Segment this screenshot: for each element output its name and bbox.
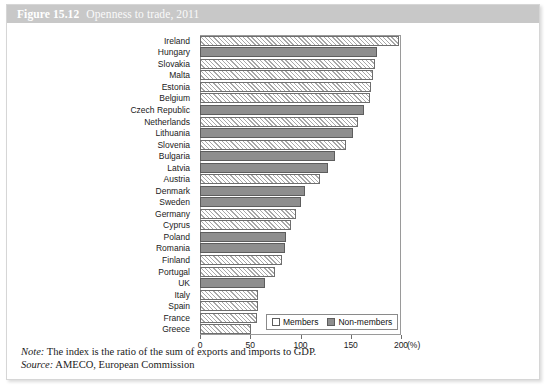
- bar-row: [200, 267, 401, 277]
- bar-slovenia: [200, 140, 346, 150]
- y-axis-label-netherlands: Netherlands: [144, 117, 190, 127]
- y-axis-label-hungary: Hungary: [158, 47, 190, 57]
- figure-header: Figure 15.12 Openness to trade, 2011: [7, 5, 539, 23]
- bar-row: [200, 174, 401, 184]
- y-axis-label-denmark: Denmark: [156, 186, 190, 196]
- legend-swatch-members-icon: [272, 318, 280, 326]
- bar-row: [200, 128, 401, 138]
- bar-cyprus: [200, 220, 291, 230]
- y-axis-label-czech-republic: Czech Republic: [130, 105, 190, 115]
- y-axis-label-finland: Finland: [162, 255, 190, 265]
- bar-row: [200, 151, 401, 161]
- bar-row: [200, 243, 401, 253]
- bar-lithuania: [200, 128, 353, 138]
- figure-title: Openness to trade, 2011: [86, 8, 199, 20]
- bar-finland: [200, 255, 282, 265]
- bar-bulgaria: [200, 151, 335, 161]
- bar-estonia: [200, 82, 371, 92]
- bar-row: [200, 209, 401, 219]
- bar-row: [200, 255, 401, 265]
- x-axis-tick: [250, 335, 251, 339]
- legend-swatch-nonmembers-icon: [327, 318, 335, 326]
- figure-card: Figure 15.12 Openness to trade, 2011 Ire…: [6, 4, 540, 380]
- y-axis-label-austria: Austria: [164, 174, 190, 184]
- x-axis-tick: [301, 335, 302, 339]
- y-axis-label-spain: Spain: [168, 301, 190, 311]
- y-axis-label-cyprus: Cyprus: [163, 220, 190, 230]
- figure-number: Figure 15.12: [17, 8, 79, 20]
- x-axis-tick: [351, 335, 352, 339]
- y-axis-label-uk: UK: [178, 278, 190, 288]
- y-axis-label-germany: Germany: [155, 209, 190, 219]
- y-axis-label-latvia: Latvia: [167, 163, 190, 173]
- y-axis-label-bulgaria: Bulgaria: [159, 151, 190, 161]
- bar-row: [200, 278, 401, 288]
- y-axis-label-slovakia: Slovakia: [158, 59, 190, 69]
- bar-row: [200, 82, 401, 92]
- footnote-source-label: Source:: [21, 359, 53, 370]
- y-axis-label-lithuania: Lithuania: [155, 128, 190, 138]
- y-axis-label-slovenia: Slovenia: [157, 140, 190, 150]
- bar-denmark: [200, 186, 305, 196]
- bar-row: [200, 47, 401, 57]
- footnote-source-text: AMECO, European Commission: [55, 359, 194, 370]
- bar-poland: [200, 232, 286, 242]
- bar-row: [200, 117, 401, 127]
- bar-portugal: [200, 267, 275, 277]
- bar-latvia: [200, 163, 328, 173]
- y-axis-label-france: France: [164, 313, 190, 323]
- y-axis-label-ireland: Ireland: [164, 36, 190, 46]
- bars-layer: [200, 35, 401, 335]
- bar-row: [200, 197, 401, 207]
- y-axis-label-portugal: Portugal: [158, 267, 190, 277]
- legend-label-members: Members: [283, 317, 318, 327]
- x-axis-tick: [401, 335, 402, 339]
- y-axis-label-italy: Italy: [174, 290, 190, 300]
- footnote-note-text: The index is the ratio of the sum of exp…: [47, 346, 316, 357]
- bar-row: [200, 93, 401, 103]
- y-axis-label-poland: Poland: [164, 232, 190, 242]
- bar-row: [200, 186, 401, 196]
- footnote-source: Source: AMECO, European Commission: [21, 358, 521, 371]
- bar-row: [200, 163, 401, 173]
- bar-france: [200, 313, 257, 323]
- bar-hungary: [200, 47, 377, 57]
- chart-legend: Members Non-members: [266, 314, 398, 330]
- y-axis-label-belgium: Belgium: [159, 93, 190, 103]
- bar-row: [200, 301, 401, 311]
- bar-row: [200, 70, 401, 80]
- y-axis-label-malta: Malta: [169, 70, 190, 80]
- bar-belgium: [200, 93, 370, 103]
- x-axis-tick: [200, 335, 201, 339]
- y-axis-label-estonia: Estonia: [162, 82, 190, 92]
- bar-czech-republic: [200, 105, 364, 115]
- footnotes: Note: The index is the ratio of the sum …: [21, 345, 521, 371]
- bar-greece: [200, 324, 251, 334]
- footnote-note-label: Note:: [21, 346, 44, 357]
- bar-italy: [200, 290, 258, 300]
- bar-row: [200, 36, 401, 46]
- legend-label-nonmembers: Non-members: [338, 317, 392, 327]
- bar-slovakia: [200, 59, 375, 69]
- footnote-note: Note: The index is the ratio of the sum …: [21, 345, 521, 358]
- bar-malta: [200, 70, 373, 80]
- legend-item-members: Members: [272, 317, 318, 327]
- bar-row: [200, 59, 401, 69]
- bar-spain: [200, 301, 258, 311]
- bar-romania: [200, 243, 285, 253]
- bar-row: [200, 105, 401, 115]
- chart-area: IrelandHungarySlovakiaMaltaEstoniaBelgiu…: [7, 23, 541, 381]
- bar-germany: [200, 209, 296, 219]
- legend-item-nonmembers: Non-members: [327, 317, 392, 327]
- bar-row: [200, 290, 401, 300]
- y-axis-label-sweden: Sweden: [159, 197, 190, 207]
- bar-austria: [200, 174, 320, 184]
- bar-row: [200, 220, 401, 230]
- bar-sweden: [200, 197, 301, 207]
- bar-uk: [200, 278, 265, 288]
- bar-ireland: [200, 36, 399, 46]
- bar-row: [200, 232, 401, 242]
- y-axis-label-greece: Greece: [162, 324, 190, 334]
- y-axis-label-romania: Romania: [156, 243, 190, 253]
- bar-row: [200, 140, 401, 150]
